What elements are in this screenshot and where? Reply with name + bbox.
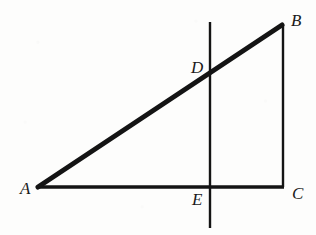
segment-ab	[38, 25, 282, 187]
vertex-label-d: D	[191, 59, 203, 76]
figure-canvas	[0, 0, 316, 235]
geometry-figure: A B C D E	[0, 0, 316, 235]
vertex-label-c: C	[292, 185, 303, 202]
vertex-label-b: B	[291, 12, 301, 29]
vertex-label-a: A	[20, 180, 30, 197]
vertex-label-e: E	[192, 191, 202, 208]
